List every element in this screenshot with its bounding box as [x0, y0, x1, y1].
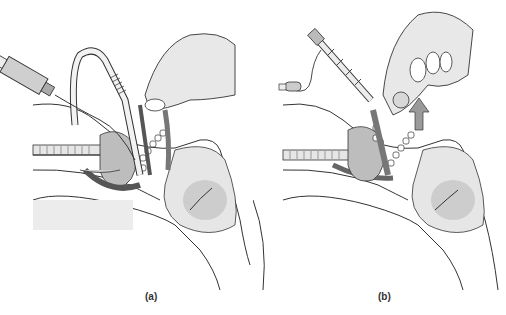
panel-b: (b) [253, 0, 506, 315]
panel-label-a: (a) [145, 291, 157, 302]
panel-label-b: (b) [378, 291, 391, 302]
intubation-illustration-b [253, 0, 506, 315]
intubation-illustration-a [0, 0, 253, 315]
panel-a: (a) [0, 0, 253, 315]
